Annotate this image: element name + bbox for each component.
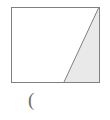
figure-root: ( <box>0 0 110 120</box>
caption-text: ( <box>28 88 34 112</box>
geometry-figure <box>0 0 110 90</box>
caption-row: ( <box>0 88 110 120</box>
